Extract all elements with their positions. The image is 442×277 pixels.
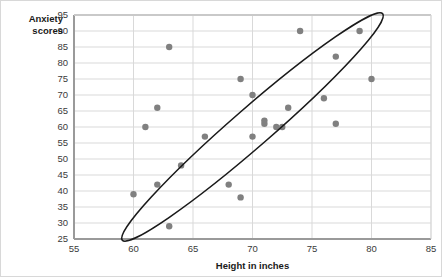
y-tick-label: 75	[57, 73, 68, 84]
y-tick-label: 30	[57, 217, 68, 228]
data-point	[166, 223, 172, 229]
scatter-chart: 253035404550556065707580859095 556065707…	[1, 1, 442, 277]
y-tick-label: 55	[57, 137, 68, 148]
x-tick-label: 75	[307, 243, 318, 254]
data-point	[333, 53, 339, 59]
x-tick-label: 65	[188, 243, 199, 254]
x-tick-label: 60	[128, 243, 139, 254]
y-axis-title-line1: Anxiety	[29, 13, 64, 24]
y-tick-label: 80	[57, 57, 68, 68]
x-axis-title: Height in inches	[216, 260, 289, 271]
y-tick-label: 70	[57, 89, 68, 100]
y-tick-label: 50	[57, 153, 68, 164]
x-tick-label: 85	[426, 243, 437, 254]
data-point	[333, 121, 339, 127]
y-tick-label: 35	[57, 201, 68, 212]
data-point	[130, 191, 136, 197]
data-point	[261, 121, 267, 127]
data-point	[202, 133, 208, 139]
y-tick-label: 60	[57, 121, 68, 132]
data-point	[142, 124, 148, 130]
y-tick-label: 25	[57, 233, 68, 244]
data-point	[297, 28, 303, 34]
data-point	[321, 95, 327, 101]
data-point	[166, 44, 172, 50]
data-point	[226, 181, 232, 187]
chart-svg: 253035404550556065707580859095 556065707…	[1, 1, 442, 277]
data-point	[237, 194, 243, 200]
data-point	[356, 28, 362, 34]
data-point	[237, 76, 243, 82]
y-tick-label: 65	[57, 105, 68, 116]
image-frame: 253035404550556065707580859095 556065707…	[0, 0, 442, 277]
y-tick-label: 85	[57, 41, 68, 52]
y-axis-tick-labels: 253035404550556065707580859095	[57, 9, 68, 244]
data-point	[285, 105, 291, 111]
data-point	[154, 181, 160, 187]
x-tick-label: 80	[366, 243, 377, 254]
y-tick-label: 40	[57, 185, 68, 196]
data-point	[368, 76, 374, 82]
y-axis-title-line2: scores	[32, 25, 63, 36]
data-point	[249, 92, 255, 98]
x-tick-label: 70	[247, 243, 258, 254]
data-point	[249, 133, 255, 139]
data-point	[154, 105, 160, 111]
x-axis-tick-labels: 55606570758085	[69, 243, 437, 254]
x-tick-label: 55	[69, 243, 80, 254]
y-tick-label: 45	[57, 169, 68, 180]
